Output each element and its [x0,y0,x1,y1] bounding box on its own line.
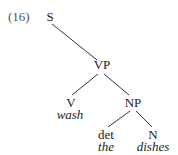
edge-s-vp [52,24,97,60]
edge-vp-v [72,74,98,95]
node-vp: VP [94,58,111,71]
example-number: (16) [8,10,30,23]
word-dishes: dishes [137,140,170,153]
word-the: the [98,140,114,153]
edge-np-n [136,111,152,127]
word-wash: wash [57,108,84,121]
node-np: NP [125,96,142,109]
node-s: S [46,10,53,23]
edge-vp-np [104,74,129,95]
edge-np-det [108,111,130,127]
